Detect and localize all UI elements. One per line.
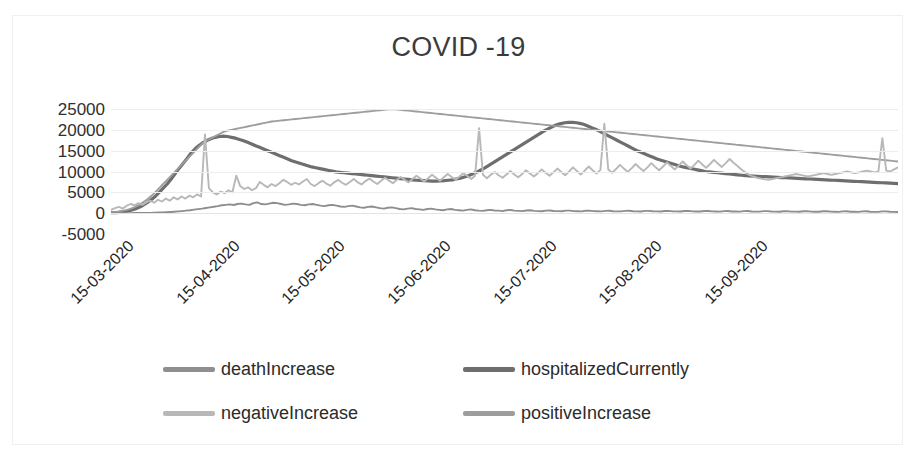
plot-canvas <box>111 109 898 234</box>
x-axis-tick-label: 15-08-2020 <box>595 237 665 307</box>
legend-swatch-icon <box>463 367 515 372</box>
plot-area <box>111 109 898 234</box>
series-line-positiveIncrease <box>111 109 898 212</box>
gridline <box>111 151 898 152</box>
gridline <box>111 172 898 173</box>
series-line-hospitalizedCurrently <box>111 122 898 212</box>
x-axis-tick-label: 15-03-2020 <box>67 237 137 307</box>
chart-container: COVID -19 2500020000150001000050000-5000… <box>12 15 903 445</box>
x-axis-tick-label: 15-06-2020 <box>384 237 454 307</box>
y-axis-tick-label: 25000 <box>58 101 105 118</box>
legend-row: negativeIncrease positiveIncrease <box>163 391 763 435</box>
legend-swatch-icon <box>463 411 515 416</box>
legend-label: hospitalizedCurrently <box>521 359 689 380</box>
legend-label: deathIncrease <box>221 359 335 380</box>
y-axis-tick-label: -5000 <box>62 226 105 243</box>
chart-title: COVID -19 <box>13 32 904 63</box>
legend-swatch-icon <box>163 411 215 416</box>
y-axis: 2500020000150001000050000-5000 <box>33 109 105 234</box>
legend-item-negativeIncrease[interactable]: negativeIncrease <box>163 403 463 424</box>
legend-row: deathIncrease hospitalizedCurrently <box>163 347 763 391</box>
gridline <box>111 192 898 193</box>
x-axis-tick-label: 15-07-2020 <box>490 237 560 307</box>
x-axis-tick-label: 15-04-2020 <box>173 237 243 307</box>
legend-label: positiveIncrease <box>521 403 651 424</box>
x-axis-tick-label: 15-09-2020 <box>701 237 771 307</box>
x-axis: 15-03-202015-04-202015-05-202015-06-2020… <box>111 237 898 332</box>
legend-swatch-icon <box>163 367 215 372</box>
series-line-deathIncrease <box>111 202 898 213</box>
gridline <box>111 109 898 110</box>
legend-item-hospitalizedCurrently[interactable]: hospitalizedCurrently <box>463 359 763 380</box>
y-axis-tick-label: 20000 <box>58 121 105 138</box>
legend-label: negativeIncrease <box>221 403 358 424</box>
y-axis-tick-label: 15000 <box>58 142 105 159</box>
gridline <box>111 213 898 214</box>
legend-item-deathIncrease[interactable]: deathIncrease <box>163 359 463 380</box>
x-axis-tick-label: 15-05-2020 <box>278 237 348 307</box>
y-axis-tick-label: 0 <box>96 205 105 222</box>
y-axis-tick-label: 5000 <box>67 184 105 201</box>
legend-item-positiveIncrease[interactable]: positiveIncrease <box>463 403 763 424</box>
chart-legend: deathIncrease hospitalizedCurrently nega… <box>163 347 763 435</box>
gridline <box>111 130 898 131</box>
y-axis-tick-label: 10000 <box>58 163 105 180</box>
